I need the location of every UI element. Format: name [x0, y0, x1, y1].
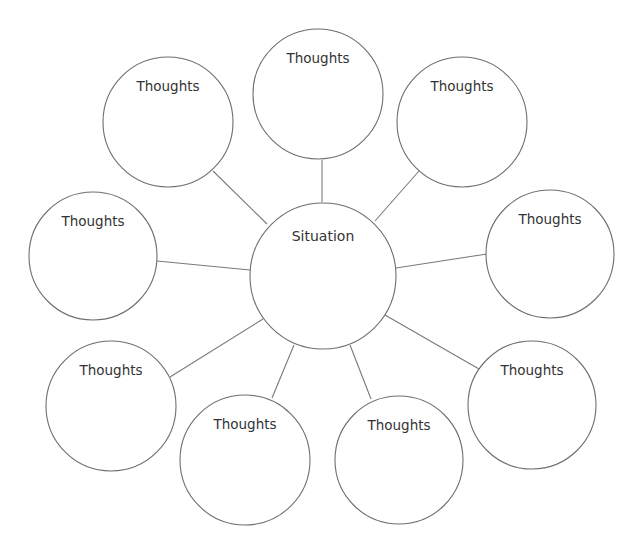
thought-circle	[486, 190, 614, 318]
thought-node-top: Thoughts	[253, 29, 383, 159]
thought-circle	[29, 192, 157, 320]
bubble-map-diagram: ThoughtsThoughtsThoughtsThoughtsThoughts…	[0, 0, 637, 548]
connector-line-bottom-right	[385, 315, 479, 369]
connector-line-bottom-center-left	[272, 345, 294, 398]
thought-circle	[335, 396, 463, 524]
thought-node-top-left: Thoughts	[103, 57, 233, 187]
thought-circle	[103, 57, 233, 187]
thought-circle	[253, 29, 383, 159]
thought-label: Thoughts	[78, 362, 142, 378]
thought-node-left: Thoughts	[29, 192, 157, 320]
thought-node-bottom-center-left: Thoughts	[180, 395, 310, 525]
thought-circle	[397, 57, 527, 187]
connector-line-bottom-left	[170, 319, 263, 377]
thought-node-right: Thoughts	[486, 190, 614, 318]
thought-label: Thoughts	[517, 211, 581, 227]
connector-line-left	[157, 261, 250, 270]
connector-line-top-left	[213, 171, 267, 224]
situation-node: Situation	[250, 203, 396, 349]
thought-node-top-right: Thoughts	[397, 57, 527, 187]
thought-node-bottom-left: Thoughts	[46, 341, 176, 471]
connector-line-right	[396, 254, 487, 268]
connector-line-top-right	[375, 171, 419, 221]
thought-label: Thoughts	[499, 362, 563, 378]
thought-label: Thoughts	[135, 78, 199, 94]
thought-label: Thoughts	[429, 78, 493, 94]
thought-label: Thoughts	[60, 213, 124, 229]
thought-label: Thoughts	[212, 416, 276, 432]
thought-circle	[46, 341, 176, 471]
thought-label: Thoughts	[285, 50, 349, 66]
thought-node-bottom-center-right: Thoughts	[335, 396, 463, 524]
connector-line-bottom-center-right	[350, 345, 371, 399]
thought-circle	[180, 395, 310, 525]
thought-circle	[468, 341, 596, 469]
thought-label: Thoughts	[366, 417, 430, 433]
situation-label: Situation	[292, 228, 355, 244]
thought-node-bottom-right: Thoughts	[468, 341, 596, 469]
situation-circle	[250, 203, 396, 349]
